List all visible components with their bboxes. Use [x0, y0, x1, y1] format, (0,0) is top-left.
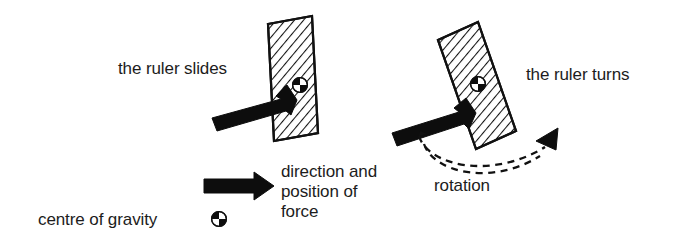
legend-centre-of-gravity: centre of gravity	[38, 210, 226, 229]
legend-force-line-1: direction and	[281, 162, 377, 181]
legend-cog-label: centre of gravity	[38, 210, 158, 229]
legend-force-arrow-icon	[204, 172, 274, 200]
physics-diagram: the ruler slides the ruler	[0, 0, 696, 246]
force-arrow-turns	[392, 98, 476, 146]
legend-force: direction and position of force	[204, 162, 377, 221]
legend-force-line-2: position of	[281, 182, 358, 201]
legend-force-line-3: force	[281, 202, 318, 221]
caption-ruler-turns: the ruler turns	[526, 65, 629, 84]
caption-ruler-slides: the ruler slides	[118, 59, 227, 78]
cog-marker-left	[293, 78, 308, 93]
panel-turns: the ruler turns	[392, 16, 629, 195]
label-rotation: rotation	[434, 176, 490, 195]
cog-marker-right	[471, 77, 486, 92]
panel-slides: the ruler slides	[118, 10, 330, 150]
diagram-canvas: the ruler slides the ruler	[0, 0, 696, 246]
legend-cog-icon	[212, 212, 227, 227]
rotation-arrow-head	[536, 128, 558, 150]
